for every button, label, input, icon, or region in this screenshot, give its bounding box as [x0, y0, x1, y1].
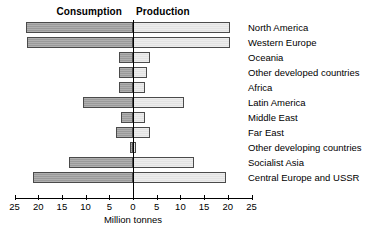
bar-consumption [121, 112, 133, 123]
x-axis-title: Million tonnes [104, 214, 162, 225]
x-tick-label: 10 [80, 201, 91, 212]
bar-consumption [116, 127, 133, 138]
x-tick-label: 25 [246, 201, 257, 212]
bar-production [133, 82, 145, 93]
x-tick [86, 195, 87, 200]
category-label: North America [248, 20, 380, 35]
bar-consumption [27, 37, 133, 48]
x-tick-label: 25 [9, 201, 20, 212]
legend-label-production: Production [136, 6, 190, 17]
bar-production [133, 157, 194, 168]
x-tick [180, 195, 181, 200]
category-label: Middle East [248, 110, 380, 125]
bar-rows [0, 20, 260, 195]
x-tick [62, 195, 63, 200]
x-tick [157, 195, 158, 200]
bar-consumption [83, 97, 133, 108]
x-tick-label: 15 [199, 201, 210, 212]
bar-consumption [119, 52, 133, 63]
bar-consumption [119, 82, 133, 93]
bar-production [133, 97, 184, 108]
category-label: Other developing countries [248, 140, 380, 155]
x-tick-label: 5 [154, 201, 159, 212]
bar-production [133, 22, 230, 33]
x-tick [109, 195, 110, 200]
bar-consumption [33, 172, 133, 183]
category-labels: North AmericaWestern EuropeOceaniaOther … [248, 20, 380, 195]
category-label: Western Europe [248, 35, 380, 50]
chart-container: Consumption Production North AmericaWest… [0, 0, 380, 236]
x-tick-label: 10 [175, 201, 186, 212]
x-tick [38, 195, 39, 200]
plot-area [0, 20, 260, 195]
category-label: Far East [248, 125, 380, 140]
x-tick [252, 195, 253, 200]
bar-row [0, 35, 260, 50]
bar-row [0, 125, 260, 140]
x-tick-label: 5 [107, 201, 112, 212]
category-label: Africa [248, 80, 380, 95]
category-label: Central Europe and USSR [248, 170, 380, 185]
bar-row [0, 20, 260, 35]
bar-production [133, 112, 145, 123]
category-label: Oceania [248, 50, 380, 65]
bar-row [0, 170, 260, 185]
x-tick-label: 20 [223, 201, 234, 212]
bar-row [0, 155, 260, 170]
bar-row [0, 110, 260, 125]
bar-consumption [69, 157, 133, 168]
x-tick-label: 20 [33, 201, 44, 212]
zero-axis-line [133, 20, 134, 200]
chart-legend: Consumption Production [0, 6, 260, 20]
x-tick-label: 15 [57, 201, 68, 212]
x-tick [15, 195, 16, 200]
x-tick [204, 195, 205, 200]
bar-production [133, 67, 147, 78]
legend-label-consumption: Consumption [56, 6, 122, 17]
x-tick [228, 195, 229, 200]
category-label: Other developed countries [248, 65, 380, 80]
bar-row [0, 50, 260, 65]
x-tick-label: 0 [130, 201, 135, 212]
x-axis: 2520151050510152025 Million tonnes [0, 195, 260, 235]
bar-row [0, 65, 260, 80]
bar-consumption [119, 67, 133, 78]
bar-row [0, 140, 260, 155]
bar-consumption [26, 22, 133, 33]
bar-production [133, 172, 226, 183]
bar-production [133, 127, 150, 138]
category-label: Socialist Asia [248, 155, 380, 170]
bar-production [133, 37, 230, 48]
bar-production [133, 52, 150, 63]
category-label: Latin America [248, 95, 380, 110]
bar-row [0, 80, 260, 95]
bar-row [0, 95, 260, 110]
